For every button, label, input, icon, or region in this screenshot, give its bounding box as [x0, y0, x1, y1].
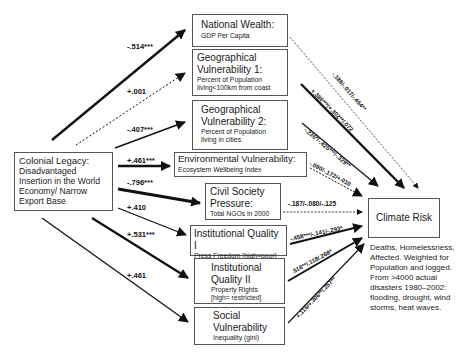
node-title: Institutional Quality I [194, 228, 283, 251]
node-national-wealth: National Wealth: GDP Per Capita [192, 14, 288, 47]
node-geo-vuln-2: Geographical Vulnerability 2: Percent of… [192, 100, 288, 150]
outcome-title: Climate Risk [376, 212, 432, 224]
node-inst-quality-2: Institutional Quality II Property Rights… [194, 258, 285, 304]
path-label-geo-vuln-2: -.407*** [127, 125, 153, 134]
node-civil-society: Civil Society Pressure: Total NGOs in 20… [205, 183, 281, 220]
node-title: Civil Society Pressure: [210, 186, 276, 209]
path-label-national-wealth: -.514*** [127, 42, 153, 51]
outcome-label-civil-society: -.187/-.080/-.125 [288, 200, 336, 207]
node-subtitle: Percent of Population living<100km from … [197, 76, 283, 92]
path-label-geo-vuln-1: +.001 [127, 87, 146, 96]
node-geo-vuln-1: Geographical Vulnerability 1: Percent of… [192, 49, 288, 96]
node-title: Environmental Vulnerability: [178, 154, 303, 165]
node-title: Geographical Vulnerability 2: [201, 104, 279, 127]
source-subtitle: Disadvantaged Insertion in the World Eco… [19, 167, 108, 207]
path-label-inst-quality-2: +.531*** [127, 230, 155, 239]
node-title: Social Vulnerability [213, 310, 266, 333]
node-subtitle: Total NGOs in 2000 [210, 210, 276, 218]
path-label-inst-quality-1: +.410 [127, 203, 146, 212]
node-subtitle: Percent of Population living in cities [201, 128, 279, 144]
outcome-note: Deaths, Homelessness, Affected. Weighted… [370, 243, 458, 313]
node-inst-quality-1: Institutional Quality I Press Freedom [h… [190, 225, 287, 256]
source-node-colonial-legacy: Colonial Legacy: Disadvantaged Insertion… [14, 152, 113, 211]
outcome-node-climate-risk: Climate Risk [368, 198, 440, 238]
node-subtitle: Ecosystem Wellbeing Index [178, 166, 303, 174]
node-title: Geographical Vulnerability 1: [197, 52, 283, 75]
node-env-vuln: Environmental Vulnerability: Ecosystem W… [174, 152, 307, 177]
path-label-env-vuln: +.461*** [127, 156, 155, 165]
node-social-vuln: Social Vulnerability Inequality (gini) [194, 307, 285, 345]
path-label-social-vuln: +.461 [127, 271, 146, 280]
node-subtitle: Property Rights [high= restricted] [211, 286, 268, 302]
node-title: Institutional Quality II [211, 262, 268, 285]
node-subtitle: Inequality (gini) [213, 334, 266, 342]
node-subtitle: GDP Per Capita [201, 32, 279, 40]
node-title: National Wealth: [201, 19, 279, 31]
path-label-civil-society: -.796*** [127, 178, 153, 187]
